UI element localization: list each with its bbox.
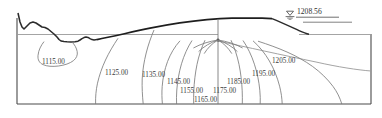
water-level-label: 1208.56 (297, 8, 322, 16)
contour-line-1135 (142, 30, 154, 104)
left-natural-terrain (18, 13, 97, 42)
contour-label-1135: 1135.00 (142, 72, 165, 79)
contour-label-1165: 1165.00 (194, 97, 217, 104)
contour-label-1125: 1125.00 (105, 70, 128, 77)
contour-label-1195: 1195.00 (252, 71, 275, 78)
downstream-face (272, 19, 309, 35)
contour-label-1185: 1185.00 (227, 79, 250, 86)
contour-label-1145: 1145.00 (167, 79, 190, 86)
contour-label-1205: 1205.00 (272, 58, 295, 65)
contour-label-1155: 1155.00 (180, 88, 203, 95)
dam-embankment-surface (97, 18, 272, 39)
dam-seepage-diagram: 1208.56 1115.00 1125.00 1135.00 1145.00 … (0, 0, 382, 118)
contour-radial-detail-left-a (204, 40, 218, 54)
contour-label-1175: 1175.00 (213, 88, 236, 95)
contour-label-1115: 1115.00 (42, 59, 65, 66)
